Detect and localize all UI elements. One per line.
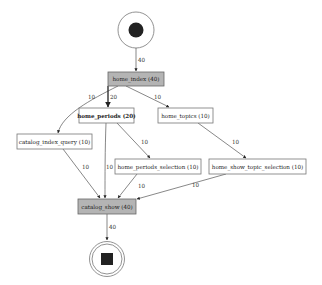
node-home-periods-selection[interactable]: home_periods_selection (10) xyxy=(115,159,201,174)
node-label: home_periods (20) xyxy=(77,113,136,120)
node-home-topics[interactable]: home_topics (10) xyxy=(158,108,213,123)
node-label: catalog_show (40) xyxy=(81,204,132,211)
end-square-icon xyxy=(101,253,113,265)
edge-label: 10 xyxy=(192,182,200,188)
edge-label: 10 xyxy=(88,94,96,100)
node-catalog-show[interactable]: catalog_show (40) xyxy=(78,199,136,214)
edge-label: 10 xyxy=(232,139,240,145)
node-label: catalog_index_query (10) xyxy=(19,139,90,146)
edge-home-periods-to-catalog-show: 10 xyxy=(105,123,114,198)
node-home-show-topic-selection[interactable]: home_show_topic_selection (10) xyxy=(209,159,306,174)
edge-label: 10 xyxy=(82,164,90,170)
edge-home-periods-selection-to-catalog-show: 10 xyxy=(118,174,146,198)
end-node[interactable] xyxy=(90,242,125,277)
edge-home-topics-to-home-show-topic-selection: 10 xyxy=(198,123,246,158)
node-catalog-index-query[interactable]: catalog_index_query (10) xyxy=(17,134,92,149)
edge-label: 10 xyxy=(141,139,149,145)
node-home-index[interactable]: home_index (40) xyxy=(108,72,164,86)
node-label: home_periods_selection (10) xyxy=(117,164,198,171)
start-dot-icon xyxy=(129,23,144,38)
node-home-periods[interactable]: home_periods (20) xyxy=(77,108,136,123)
node-label: home_show_topic_selection (10) xyxy=(212,164,303,171)
edge-home-index-to-home-topics: 10 xyxy=(126,86,169,107)
edge-catalog-index-query-to-catalog-show: 10 xyxy=(63,149,100,198)
edge-catalog-show-to-end: 40 xyxy=(107,214,117,240)
edge-label: 40 xyxy=(138,57,146,63)
node-label: home_topics (10) xyxy=(161,113,210,120)
edge-label: 10 xyxy=(138,183,146,189)
edge-label: 10 xyxy=(154,94,162,100)
start-node[interactable] xyxy=(118,12,154,48)
node-label: home_index (40) xyxy=(112,76,159,83)
edge-home-periods-to-home-periods-selection: 10 xyxy=(117,123,150,158)
process-graph-canvas: 40 10 20 10 10 10 10 10 10 10 40 xyxy=(0,0,322,285)
edge-label: 10 xyxy=(106,164,114,170)
edge-home-index-to-home-periods: 20 xyxy=(108,86,118,107)
edge-label: 40 xyxy=(109,224,117,230)
edge-home-show-topic-selection-to-catalog-show: 10 xyxy=(137,174,226,199)
edge-label: 20 xyxy=(110,94,118,100)
edge-start-to-home-index: 40 xyxy=(136,48,146,71)
